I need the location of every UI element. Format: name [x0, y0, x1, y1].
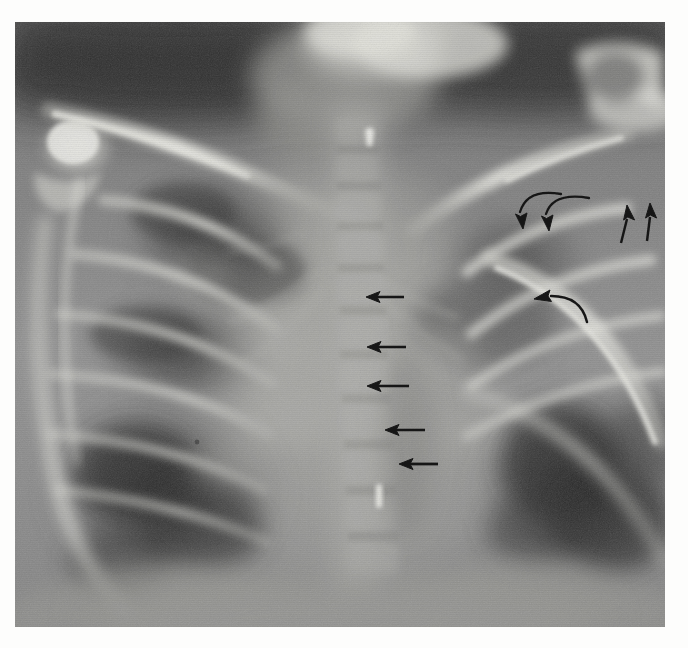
marker-lower [376, 484, 382, 508]
film-artifact-speck [195, 440, 200, 445]
chest-radiograph-image [15, 22, 665, 627]
screenshot-root: frontal chest radiograph (AP) pediatric … [0, 0, 688, 648]
radiograph-render [15, 22, 665, 627]
region-paraspinal-stripe [381, 346, 433, 538]
